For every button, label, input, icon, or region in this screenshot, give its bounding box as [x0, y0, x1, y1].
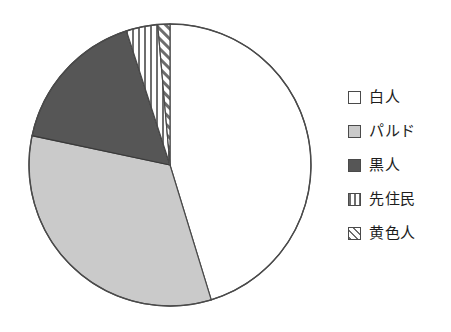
legend-label-white: 白人	[369, 90, 400, 105]
pie-chart-plot-area	[0, 0, 330, 332]
pie-slices-group	[29, 24, 311, 306]
legend-item-white[interactable]: 白人	[348, 80, 451, 114]
legend-item-black[interactable]: 黒人	[348, 148, 451, 182]
pie-chart-svg	[0, 0, 330, 332]
legend-item-indigenous[interactable]: 先住民	[348, 182, 451, 216]
legend-swatch-pardo-icon	[348, 125, 361, 138]
legend-label-pardo: パルド	[369, 124, 416, 139]
pie-chart-figure: 白人 パルド 黒人 先住民 黄色人	[0, 0, 451, 332]
legend-label-indigenous: 先住民	[369, 192, 416, 207]
chart-legend: 白人 パルド 黒人 先住民 黄色人	[348, 80, 451, 250]
legend-swatch-white-icon	[348, 91, 361, 104]
legend-item-yellow[interactable]: 黄色人	[348, 216, 451, 250]
legend-item-pardo[interactable]: パルド	[348, 114, 451, 148]
legend-swatch-indigenous-icon	[348, 193, 361, 206]
legend-swatch-yellow-icon	[348, 227, 361, 240]
legend-label-yellow: 黄色人	[369, 226, 416, 241]
legend-swatch-black-icon	[348, 159, 361, 172]
legend-label-black: 黒人	[369, 158, 400, 173]
